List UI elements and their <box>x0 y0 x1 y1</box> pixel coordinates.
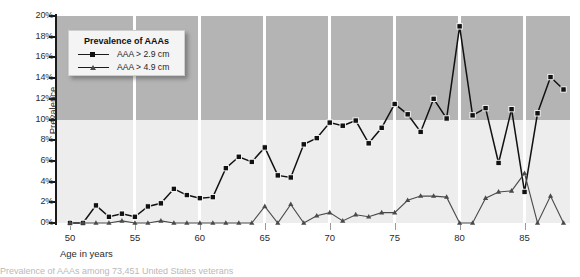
legend-title: Prevalence of AAAs <box>69 36 184 46</box>
x-axis-tick-label: 60 <box>195 232 206 243</box>
x-axis-tick <box>135 223 136 230</box>
legend: Prevalence of AAAs AAA > 2.9 cm AAA > 4.… <box>68 30 185 76</box>
x-axis-tick-label: 75 <box>389 232 400 243</box>
y-axis-tick-label: 18% <box>36 31 53 41</box>
y-axis-tick-label: 20% <box>36 10 53 20</box>
x-axis-tick <box>525 223 526 230</box>
square-marker-icon <box>78 50 109 59</box>
x-axis-tick-label: 55 <box>130 232 141 243</box>
legend-item-aaa-2-9: AAA > 2.9 cm <box>78 49 184 59</box>
triangle-marker-icon <box>78 63 109 72</box>
legend-item-label: AAA > 4.9 cm <box>117 62 169 72</box>
y-axis-tick-label: 4% <box>40 176 53 186</box>
x-axis-tick <box>330 223 331 230</box>
legend-item-aaa-4-9: AAA > 4.9 cm <box>78 62 184 72</box>
figure-caption: Prevalence of AAAs among 73,451 United S… <box>0 268 580 277</box>
x-axis: 5055606570758085 <box>57 223 570 253</box>
gridline <box>458 16 461 223</box>
x-axis-tick-label: 50 <box>65 232 76 243</box>
x-axis-tick <box>200 223 201 230</box>
x-axis-tick <box>265 223 266 230</box>
gridline <box>198 16 201 223</box>
x-axis-tick <box>70 223 71 230</box>
gridline <box>328 16 331 223</box>
y-axis-tick-label: 2% <box>40 196 53 206</box>
x-axis-title: Age in years <box>60 248 113 259</box>
gridline <box>263 16 266 223</box>
x-axis-tick-label: 65 <box>260 232 271 243</box>
y-axis-tick-label: 0% <box>40 217 53 227</box>
legend-item-label: AAA > 2.9 cm <box>117 49 169 59</box>
gridline <box>393 16 396 223</box>
x-axis-tick-label: 85 <box>519 232 530 243</box>
x-axis-tick <box>460 223 461 230</box>
chart-figure: 0%2%4%6%8%10%12%14%16%18%20% Prevalence … <box>0 0 580 277</box>
figure-caption-text: Prevalence of AAAs among 73,451 United S… <box>0 268 580 276</box>
gridline <box>523 16 526 223</box>
x-axis-tick <box>395 223 396 230</box>
x-axis-tick-label: 70 <box>324 232 335 243</box>
x-axis-tick-label: 80 <box>454 232 465 243</box>
y-axis-title: Prevalence <box>47 51 58 171</box>
